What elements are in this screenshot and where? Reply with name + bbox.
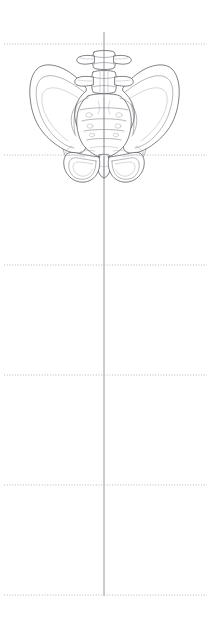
figure-canvas <box>0 0 213 629</box>
pelvis-alignment-figure <box>0 0 213 629</box>
obturator-foramen-right <box>108 152 144 182</box>
obturator-foramen-left <box>64 152 100 182</box>
pelvis-illustration <box>30 51 180 183</box>
